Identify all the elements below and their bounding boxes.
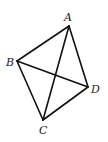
edge-cd xyxy=(43,87,88,120)
vertex-label-a: A xyxy=(63,11,72,24)
quadrilateral-diagram: A B C D xyxy=(0,0,108,142)
vertex-label-c: C xyxy=(39,124,48,137)
edges-group xyxy=(17,26,88,120)
vertex-label-d: D xyxy=(90,83,100,96)
vertex-label-b: B xyxy=(5,56,14,69)
edge-da xyxy=(69,26,88,87)
